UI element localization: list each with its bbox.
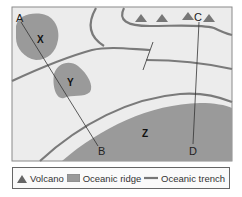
volcano-icon: [17, 174, 27, 183]
region-label-z: Z: [142, 128, 148, 139]
legend-item-volcano: Volcano: [17, 173, 64, 184]
legend-label-oceanic-trench: Oceanic trench: [161, 173, 225, 184]
legend-label-oceanic-ridge: Oceanic ridge: [83, 173, 142, 184]
legend-item-oceanic-trench: Oceanic trench: [144, 173, 225, 184]
oceanic-ridge-icon: [67, 174, 80, 182]
point-label-a: A: [16, 12, 24, 24]
legend-label-volcano: Volcano: [30, 173, 64, 184]
point-label-c: C: [194, 11, 202, 23]
point-label-d: D: [189, 145, 197, 157]
legend-item-oceanic-ridge: Oceanic ridge: [67, 173, 142, 184]
oceanic-trench-icon: [144, 175, 158, 181]
region-label-x: X: [37, 34, 44, 45]
region-label-y: Y: [67, 77, 74, 88]
point-label-b: B: [98, 145, 105, 157]
legend: Volcano Oceanic ridge Oceanic trench: [12, 167, 230, 189]
